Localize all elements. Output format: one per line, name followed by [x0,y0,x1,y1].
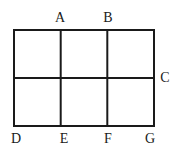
geometry-figure: A B C D E F G [0,0,182,156]
label-f: F [100,132,116,146]
label-a: A [52,11,68,25]
label-d: D [8,132,24,146]
label-g: G [142,132,158,146]
label-e: E [56,132,72,146]
label-c: C [157,71,173,85]
label-b: B [100,11,116,25]
